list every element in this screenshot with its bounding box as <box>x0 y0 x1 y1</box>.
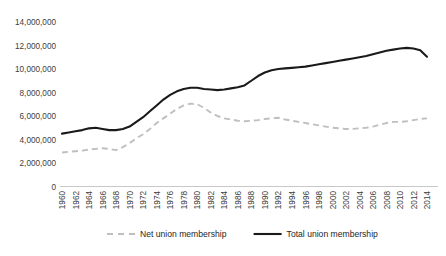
x-tick-label: 1974 <box>153 191 162 210</box>
y-axis-tick-labels: 02,000,0004,000,0006,000,0008,000,00010,… <box>15 18 56 192</box>
x-tick-label: 1984 <box>220 191 229 210</box>
legend-item[interactable]: Net union membership <box>107 229 227 239</box>
x-tick-label: 2000 <box>329 191 338 210</box>
series-group <box>62 48 427 153</box>
x-tick-label: 2004 <box>356 191 365 210</box>
x-axis-tick-labels: 1960196219641966196819701972197419761978… <box>58 191 432 210</box>
series-line-net <box>62 104 427 153</box>
x-tick-label: 1968 <box>112 191 121 210</box>
legend-label: Net union membership <box>140 229 227 239</box>
x-tick-label: 1998 <box>315 191 324 210</box>
y-tick-label: 14,000,000 <box>15 18 56 27</box>
x-tick-label: 2006 <box>369 191 378 210</box>
x-tick-label: 1988 <box>247 191 256 210</box>
line-chart: 02,000,0004,000,0006,000,0008,000,00010,… <box>0 0 446 256</box>
x-tick-label: 2012 <box>410 191 419 210</box>
x-tick-label: 1986 <box>234 191 243 210</box>
x-tick-label: 1982 <box>207 191 216 210</box>
x-tick-label: 2014 <box>423 191 432 210</box>
y-tick-label: 6,000,000 <box>20 112 57 121</box>
x-tick-label: 1978 <box>180 191 189 210</box>
x-tick-label: 2010 <box>396 191 405 210</box>
x-tick-label: 1992 <box>274 191 283 210</box>
y-tick-label: 8,000,000 <box>20 89 57 98</box>
legend-item[interactable]: Total union membership <box>254 229 378 239</box>
y-tick-label: 2,000,000 <box>20 159 57 168</box>
chart-legend: Net union membershipTotal union membersh… <box>107 229 378 239</box>
chart-canvas: 02,000,0004,000,0006,000,0008,000,00010,… <box>0 0 446 256</box>
x-tick-label: 1960 <box>58 191 67 210</box>
x-tick-label: 1962 <box>72 191 81 210</box>
x-tick-label: 2008 <box>383 191 392 210</box>
y-tick-label: 4,000,000 <box>20 136 57 145</box>
x-tick-label: 1994 <box>288 191 297 210</box>
x-tick-label: 1970 <box>126 191 135 210</box>
legend-label: Total union membership <box>287 229 378 239</box>
y-tick-label: 0 <box>51 183 56 192</box>
y-tick-label: 10,000,000 <box>15 65 56 74</box>
x-tick-label: 2002 <box>342 191 351 210</box>
x-tick-label: 1976 <box>166 191 175 210</box>
y-tick-label: 12,000,000 <box>15 42 56 51</box>
x-tick-label: 1964 <box>85 191 94 210</box>
x-tick-label: 1966 <box>99 191 108 210</box>
x-tick-label: 1980 <box>193 191 202 210</box>
x-tick-label: 1996 <box>302 191 311 210</box>
x-tick-label: 1972 <box>139 191 148 210</box>
x-tick-label: 1990 <box>261 191 270 210</box>
